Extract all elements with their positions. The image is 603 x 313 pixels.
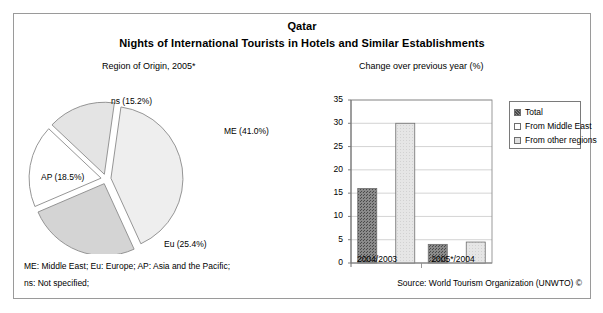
pie-label-ap: AP (18.5%) — [41, 172, 84, 182]
bar-20042003-total — [358, 188, 377, 263]
x-axis-tick-label-1: 2005*/2004 — [415, 254, 491, 264]
pie-label-me: ME (41.0%) — [224, 126, 269, 136]
footer-abbreviations-line-2: ns: Not specified; — [24, 278, 89, 288]
bar-20042003-from-other-regions — [396, 123, 415, 263]
y-axis-tick-label-35: 35 — [323, 94, 343, 104]
y-axis-tick-label-5: 5 — [323, 234, 343, 244]
legend-swatch-other-regions — [514, 137, 521, 144]
y-axis-tick-label-0: 0 — [323, 257, 343, 267]
pie-chart-caption: Region of Origin, 2005* — [102, 61, 196, 71]
figure-main-title: Nights of International Tourists in Hote… — [14, 37, 590, 49]
footer-source-note: Source: World Tourism Organization (UNWT… — [397, 278, 582, 288]
bar-chart-panel: 05101520253035 2004/2003 2005*/2004 Tota… — [319, 74, 584, 279]
pie-label-eu: Eu (25.4%) — [164, 239, 207, 249]
y-axis-tick-label-20: 20 — [323, 164, 343, 174]
bar-chart-caption: Change over previous year (%) — [359, 61, 484, 71]
pie-chart-panel: ME (41.0%) Eu (25.4%) AP (18.5%) ns (15.… — [24, 74, 314, 254]
legend-item-middle-east: From Middle East — [514, 119, 577, 133]
legend-swatch-middle-east — [514, 123, 521, 130]
legend-label-total: Total — [525, 107, 543, 117]
y-axis-tick-label-10: 10 — [323, 210, 343, 220]
pie-label-ns: ns (15.2%) — [111, 96, 152, 106]
legend-label-other-regions: From other regions — [525, 135, 597, 145]
y-axis-tick-label-25: 25 — [323, 141, 343, 151]
y-axis-tick-label-15: 15 — [323, 187, 343, 197]
legend-item-total: Total — [514, 105, 577, 119]
figure-country-title: Qatar — [14, 20, 590, 32]
legend-label-middle-east: From Middle East — [525, 121, 592, 131]
x-axis-tick-label-0: 2004/2003 — [341, 254, 413, 264]
chart-legend: Total From Middle East From other region… — [509, 101, 581, 149]
pie-chart-svg — [24, 74, 314, 254]
chart-figure-frame: Qatar Nights of International Tourists i… — [13, 13, 591, 299]
legend-swatch-total — [514, 109, 521, 116]
y-axis-tick-label-30: 30 — [323, 117, 343, 127]
legend-item-other-regions: From other regions — [514, 133, 577, 147]
footer-abbreviations-line-1: ME: Middle East; Eu: Europe; AP: Asia an… — [24, 261, 230, 271]
